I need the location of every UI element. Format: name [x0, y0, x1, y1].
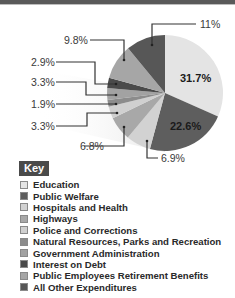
- legend-swatch-icon: [20, 203, 28, 211]
- legend-swatch-icon: [20, 215, 28, 223]
- legend-label: Hospitals and Health: [33, 202, 128, 213]
- legend-item: All Other Expenditures: [20, 282, 221, 293]
- legend-swatch-icon: [20, 192, 28, 200]
- label-hospitals: 6.9%: [161, 152, 185, 164]
- legend-label: Police and Corrections: [33, 225, 138, 236]
- legend-item: Government Administration: [20, 247, 221, 258]
- label-education: 31.7%: [180, 72, 211, 84]
- label-gov-admin: 3.3%: [31, 76, 55, 88]
- legend-item: Public Welfare: [20, 190, 221, 201]
- legend-item: Highways: [20, 213, 221, 224]
- legend-label: Highways: [33, 213, 78, 224]
- legend-label: Natural Resources, Parks and Recreation: [33, 236, 221, 247]
- legend-item: Hospitals and Health: [20, 202, 221, 213]
- legend-swatch-icon: [20, 238, 28, 246]
- legend-label: All Other Expenditures: [33, 282, 137, 293]
- legend-item: Interest on Debt: [20, 259, 221, 270]
- legend-swatch-icon: [20, 272, 28, 280]
- label-highways: 6.8%: [80, 140, 104, 152]
- legend-item: Natural Resources, Parks and Recreation: [20, 236, 221, 247]
- legend-swatch-icon: [20, 249, 28, 257]
- legend-item: Public Employees Retirement Benefits: [20, 270, 221, 281]
- label-police: 3.3%: [31, 120, 55, 132]
- label-public-welfare: 22.6%: [170, 120, 201, 132]
- key-title: Key: [19, 161, 49, 176]
- legend-swatch-icon: [20, 181, 28, 189]
- legend-label: Public Welfare: [33, 191, 99, 202]
- legend-label: Government Administration: [33, 248, 160, 259]
- legend-item: Education: [20, 179, 221, 190]
- legend-swatch-icon: [20, 283, 28, 291]
- label-natural-resources: 1.9%: [31, 98, 55, 110]
- legend-label: Interest on Debt: [33, 259, 106, 270]
- label-other: 11%: [200, 18, 220, 30]
- legend: EducationPublic WelfareHospitals and Hea…: [20, 179, 221, 293]
- label-interest: 2.9%: [31, 56, 55, 68]
- label-retirement: 9.8%: [64, 34, 88, 46]
- legend-item: Police and Corrections: [20, 225, 221, 236]
- legend-swatch-icon: [20, 226, 28, 234]
- legend-label: Education: [33, 179, 79, 190]
- legend-swatch-icon: [20, 260, 28, 268]
- legend-label: Public Employees Retirement Benefits: [33, 270, 208, 281]
